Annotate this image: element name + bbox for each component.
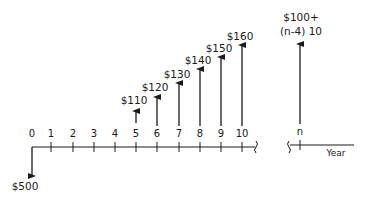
cash-flow-label-year-7: $130	[164, 68, 191, 80]
cash-flow-label-year-8: $140	[185, 54, 212, 66]
axis-break-icon	[288, 141, 291, 153]
axis-ticks	[51, 140, 300, 152]
cash-flow-label-year-6: $120	[142, 81, 169, 93]
tick-label-5: 5	[133, 128, 139, 139]
tick-label-4: 4	[112, 128, 118, 139]
tick-label-2: 2	[70, 128, 76, 139]
cash-flow-label-year-n-line1: $100+	[283, 11, 319, 23]
tick-label-3: 3	[91, 128, 97, 139]
cash-flow-labels: $500 $110 $120 $130 $140 $150 $160 $100+…	[12, 11, 322, 192]
cash-flow-label-year-5: $110	[121, 94, 148, 106]
tick-label-6: 6	[154, 128, 160, 139]
tick-label-0: 0	[29, 128, 35, 139]
tick-labels: 0 1 2 3 4 5 6 7 8 9 10 n	[29, 126, 303, 139]
tick-label-n: n	[297, 126, 303, 137]
tick-label-9: 9	[218, 128, 224, 139]
cash-flow-label-year-0: $500	[12, 180, 39, 192]
cash-flow-label-year-9: $150	[206, 42, 233, 54]
tick-label-7: 7	[176, 128, 182, 139]
cash-flow-label-year-n-line2: (n-4) 10	[280, 25, 322, 37]
axis-title-year: Year	[325, 148, 345, 158]
cash-flow-arrows	[32, 44, 300, 176]
tick-label-1: 1	[48, 128, 54, 139]
tick-label-10: 10	[236, 128, 249, 139]
tick-label-8: 8	[197, 128, 203, 139]
cash-flow-label-year-10: $160	[227, 30, 254, 42]
cash-flow-diagram: 0 1 2 3 4 5 6 7 8 9 10 n Year	[0, 0, 373, 200]
time-axis: 0 1 2 3 4 5 6 7 8 9 10 n Year	[29, 126, 354, 158]
